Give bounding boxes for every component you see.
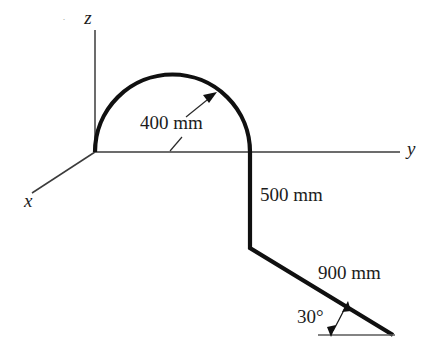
arc-radius-label: 400 mm xyxy=(140,112,203,133)
coordinate-axes xyxy=(32,30,400,193)
vertical-drop-label: 500 mm xyxy=(260,184,323,205)
y-axis-label: y xyxy=(405,138,416,159)
inclined-length-label: 900 mm xyxy=(318,262,381,283)
z-axis-label: z xyxy=(83,7,92,28)
stray-mark: · xyxy=(63,14,66,24)
arc-radius-tick xyxy=(170,137,182,151)
x-axis-line xyxy=(32,152,95,193)
x-axis-label: x xyxy=(23,190,33,211)
incline-angle-label: 30° xyxy=(297,306,324,327)
figure-root: z y x · 400 mm 500 mm 900 mm 30° xyxy=(0,0,425,353)
mechanics-figure: z y x · 400 mm 500 mm 900 mm 30° xyxy=(0,0,425,353)
